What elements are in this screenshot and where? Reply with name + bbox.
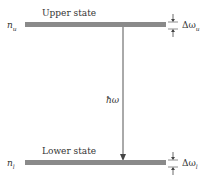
upper-level-label: nu: [7, 20, 17, 32]
upper-state-bar: [25, 22, 166, 27]
upper-width-label: Δωu: [182, 20, 200, 32]
upper-state-label: Upper state: [42, 8, 96, 18]
lower-level-label: nl: [7, 158, 15, 170]
transition-energy-label: ħω: [106, 95, 119, 105]
diagram-lines: [0, 0, 208, 186]
lower-state-bar: [25, 160, 166, 165]
lower-width-label: Δωl: [182, 158, 198, 170]
lower-state-label: Lower state: [42, 146, 96, 156]
